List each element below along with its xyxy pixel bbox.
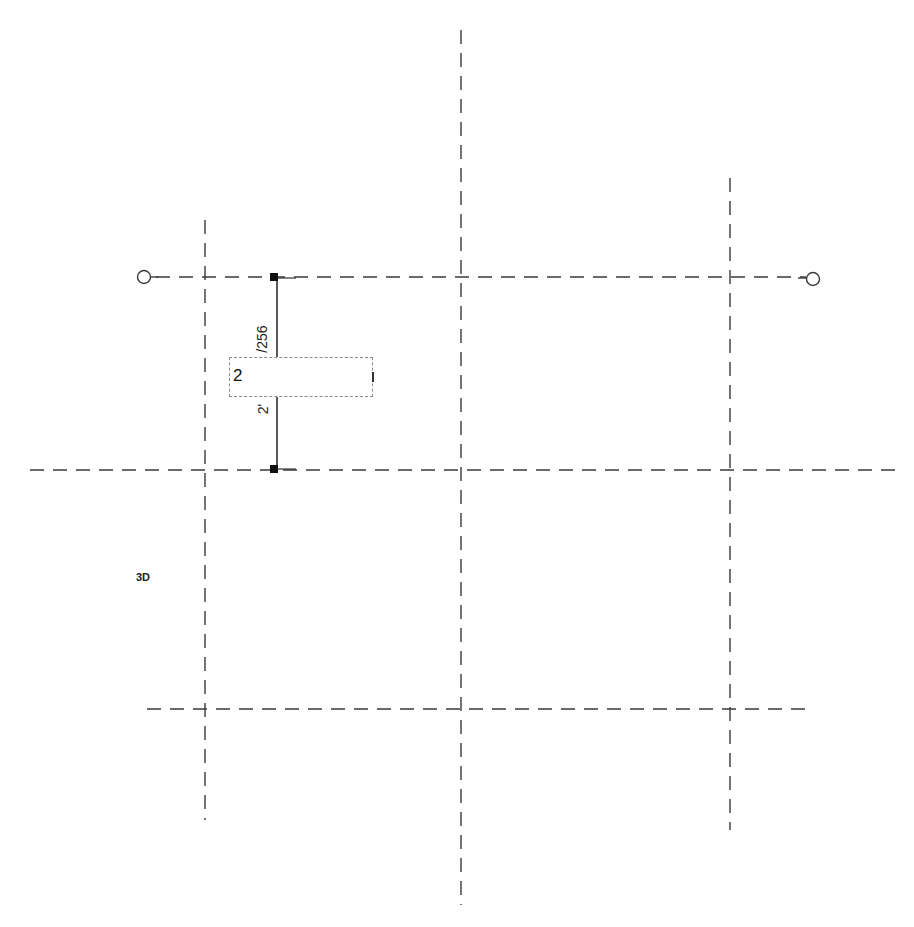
dimension-top-text: /256 [254,325,270,352]
dimension-grip-top-icon[interactable] [270,273,278,281]
dimension-bottom-text: 2' [255,404,271,414]
view-label-3d: 3D [136,571,150,583]
dimension-grip-bottom-icon[interactable] [270,465,278,473]
drawing-canvas[interactable] [0,0,914,927]
grid-bubble-right-icon[interactable] [807,273,820,286]
editor-edge-mark [372,372,374,382]
dimension-value-editor[interactable] [229,357,373,397]
grid-bubble-left-icon[interactable] [138,271,151,284]
dimension-value-input[interactable] [233,364,363,388]
